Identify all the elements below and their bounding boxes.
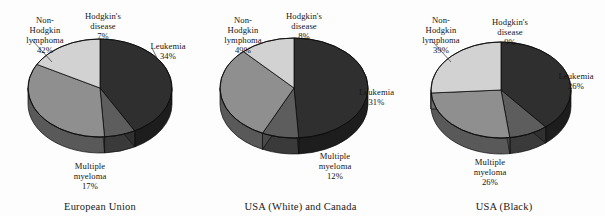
slice-label-text: Leukemia [558, 71, 593, 81]
chart-panel-usa-black: Non- Hodgkin lymphoma 39% Hodgkin's dise… [403, 0, 605, 216]
slice-label-value: 26% [482, 177, 498, 187]
slice-label-text: Non- Hodgkin lymphoma [224, 15, 262, 45]
slice-label-text: Multiple myeloma [474, 157, 507, 177]
slice-label-text: Multiple myeloma [319, 151, 352, 171]
slice-label-text: Hodgkin's disease [286, 11, 322, 31]
slice-label-text: Leukemia [359, 87, 394, 97]
slice-label-text: Non- Hodgkin lymphoma [422, 15, 460, 45]
panel-caption: USA (White) and Canada [198, 201, 403, 212]
slice-label-hodgkins-disease: Hodgkin's disease 8% [273, 2, 335, 42]
slice-label-value: 39% [433, 45, 449, 55]
slice-label-hodgkins-disease: Hodgkin's disease 9% [479, 8, 541, 48]
slice-label-non-hodgkin-lymphoma: Non- Hodgkin lymphoma 42% [8, 6, 82, 56]
slice-label-multiple-myeloma: Multiple myeloma 17% [55, 152, 125, 192]
slice-label-value: 26% [568, 81, 584, 91]
chart-panel-usa-white-and-canada: Non- Hodgkin lymphoma 49% Hodgkin's dise… [198, 0, 403, 216]
slice-label-value: 9% [504, 37, 516, 47]
slice-label-leukemia: Leukemia 31% [350, 78, 403, 108]
slice-label-hodgkins-disease: Hodgkin's disease 7% [72, 2, 134, 42]
slice-label-non-hodgkin-lymphoma: Non- Hodgkin lymphoma 49% [206, 6, 280, 56]
slice-label-text: Hodgkin's disease [492, 17, 528, 37]
slice-label-leukemia: Leukemia 26% [549, 62, 603, 92]
slice-label-value: 17% [82, 181, 98, 191]
slice-label-multiple-myeloma: Multiple myeloma 12% [302, 142, 368, 182]
panel-caption: USA (Black) [403, 201, 605, 212]
slice-label-text: Non- Hodgkin lymphoma [26, 15, 64, 45]
slice-label-value: 8% [298, 31, 310, 41]
pie-chart-figure: Non- Hodgkin lymphoma 42% Hodgkin's dise… [0, 0, 605, 216]
slice-label-text: Multiple myeloma [74, 161, 107, 181]
slice-label-leukemia: Leukemia 34% [140, 32, 196, 62]
slice-label-multiple-myeloma: Multiple myeloma 26% [455, 148, 525, 188]
slice-label-value: 34% [160, 51, 176, 61]
chart-panel-european-union: Non- Hodgkin lymphoma 42% Hodgkin's dise… [0, 0, 200, 216]
slice-label-value: 49% [235, 45, 251, 55]
slice-label-text: Hodgkin's disease [85, 11, 121, 31]
slice-label-text: Leukemia [150, 41, 185, 51]
slice-label-value: 12% [327, 171, 343, 181]
slice-label-value: 42% [37, 45, 53, 55]
panel-caption: European Union [0, 201, 200, 212]
slice-label-non-hodgkin-lymphoma: Non- Hodgkin lymphoma 39% [405, 6, 477, 56]
slice-label-value: 7% [97, 31, 109, 41]
slice-label-value: 31% [368, 97, 384, 107]
